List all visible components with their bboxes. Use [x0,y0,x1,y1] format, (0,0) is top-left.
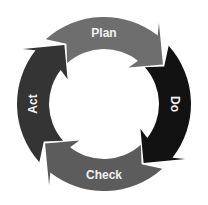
pdca-cycle-diagram: PlanDoCheckAct [0,0,208,205]
label-check: Check [86,168,122,182]
label-do: Do [168,96,182,112]
label-plan: Plan [91,26,116,40]
label-act: Act [26,94,40,113]
